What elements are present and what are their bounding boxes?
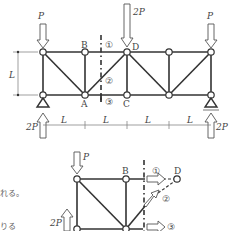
load-arrow-icon (37, 4, 217, 48)
node-label-c: C (123, 99, 130, 109)
member-force-label-2: ② (162, 194, 170, 204)
section-mark-1: ① (105, 40, 113, 50)
node-label-d: D (174, 166, 181, 176)
member-force-label-3: ③ (167, 222, 175, 231)
truss-diagram: P 2P P B D A C ① ② ③ L 2P 2P L L L L P 2… (0, 0, 230, 231)
reaction-label: 2P (215, 122, 229, 132)
reaction-label: 2P (49, 218, 63, 228)
node-label-a: A (80, 99, 88, 109)
load-label: 2P (132, 7, 146, 17)
node-label-d: D (132, 42, 139, 52)
load-label: P (82, 152, 90, 162)
section-mark-3: ③ (105, 97, 113, 107)
span-label: L (60, 115, 67, 125)
upper-truss-members (43, 52, 211, 95)
span-label: L (186, 115, 193, 125)
lower-truss-members (77, 179, 146, 229)
node-label-a: A (122, 230, 130, 231)
text-fragment: りる (0, 222, 16, 231)
member-force-label-1: ① (152, 166, 160, 176)
reaction-label: 2P (25, 122, 39, 132)
section-mark-2: ② (105, 76, 113, 86)
span-label: L (144, 115, 151, 125)
node-label-b: B (122, 166, 129, 176)
load-arrow-icon (71, 152, 83, 174)
text-fragment: れる。 (0, 189, 24, 198)
span-label: L (102, 115, 109, 125)
height-label: L (8, 70, 15, 80)
reaction-arrow-icon (61, 209, 73, 231)
node-label-b: B (81, 40, 88, 50)
load-label: P (37, 11, 45, 21)
load-label: P (206, 11, 214, 21)
